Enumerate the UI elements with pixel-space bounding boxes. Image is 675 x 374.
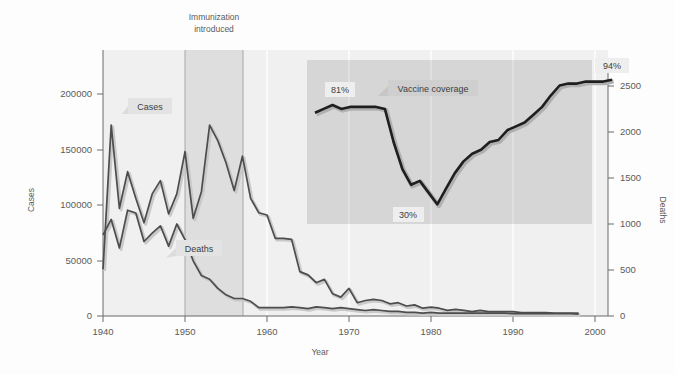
x-tick-1970: 1970 xyxy=(338,326,359,337)
right-tick-2500: 2500 xyxy=(620,80,641,91)
x-axis-ticks xyxy=(103,316,595,322)
deaths-callout-label: Deaths xyxy=(185,244,214,254)
immunization-label-line1: Immunization xyxy=(189,12,240,22)
x-tick-1940: 1940 xyxy=(92,326,113,337)
immunization-label-line2: introduced xyxy=(194,24,234,34)
left-tick-200000: 200000 xyxy=(60,88,92,99)
cases-callout-label: Cases xyxy=(137,102,163,112)
right-tick-0: 0 xyxy=(620,310,625,321)
vaccine-coverage-inset: Vaccine coverage 81% 30% 94% xyxy=(307,58,629,224)
right-tick-1500: 1500 xyxy=(620,172,641,183)
vaccine-coverage-label: Vaccine coverage xyxy=(398,84,469,94)
x-tick-1990: 1990 xyxy=(502,326,523,337)
left-tick-50000: 50000 xyxy=(66,255,92,266)
x-tick-1980: 1980 xyxy=(420,326,441,337)
left-tick-150000: 150000 xyxy=(60,144,92,155)
measles-cases-deaths-chart: Immunization introduced 0 50000 100000 1… xyxy=(0,0,675,374)
coverage-title-callout: Vaccine coverage xyxy=(378,80,478,96)
coverage-start-label: 81% xyxy=(325,82,355,97)
y-axis-left-title: Cases xyxy=(26,188,36,212)
y-axis-right-title: Deaths xyxy=(658,197,668,224)
coverage-min-label: 30% xyxy=(393,207,424,222)
x-tick-2000: 2000 xyxy=(584,326,605,337)
left-tick-0: 0 xyxy=(87,310,92,321)
x-axis-title: Year xyxy=(311,347,328,357)
x-tick-1960: 1960 xyxy=(256,326,277,337)
coverage-94-text: 94% xyxy=(603,61,621,71)
right-tick-1000: 1000 xyxy=(620,218,641,229)
cases-callout: Cases xyxy=(122,98,172,114)
chart-svg: Immunization introduced 0 50000 100000 1… xyxy=(0,0,675,374)
right-tick-2000: 2000 xyxy=(620,126,641,137)
coverage-end-label: 94% xyxy=(595,58,629,73)
x-tick-1950: 1950 xyxy=(174,326,195,337)
left-axis-ticks xyxy=(97,94,103,316)
coverage-30-text: 30% xyxy=(399,210,417,220)
left-tick-100000: 100000 xyxy=(60,199,92,210)
right-axis-ticks xyxy=(608,86,614,316)
right-tick-500: 500 xyxy=(620,264,636,275)
coverage-81-text: 81% xyxy=(331,85,349,95)
